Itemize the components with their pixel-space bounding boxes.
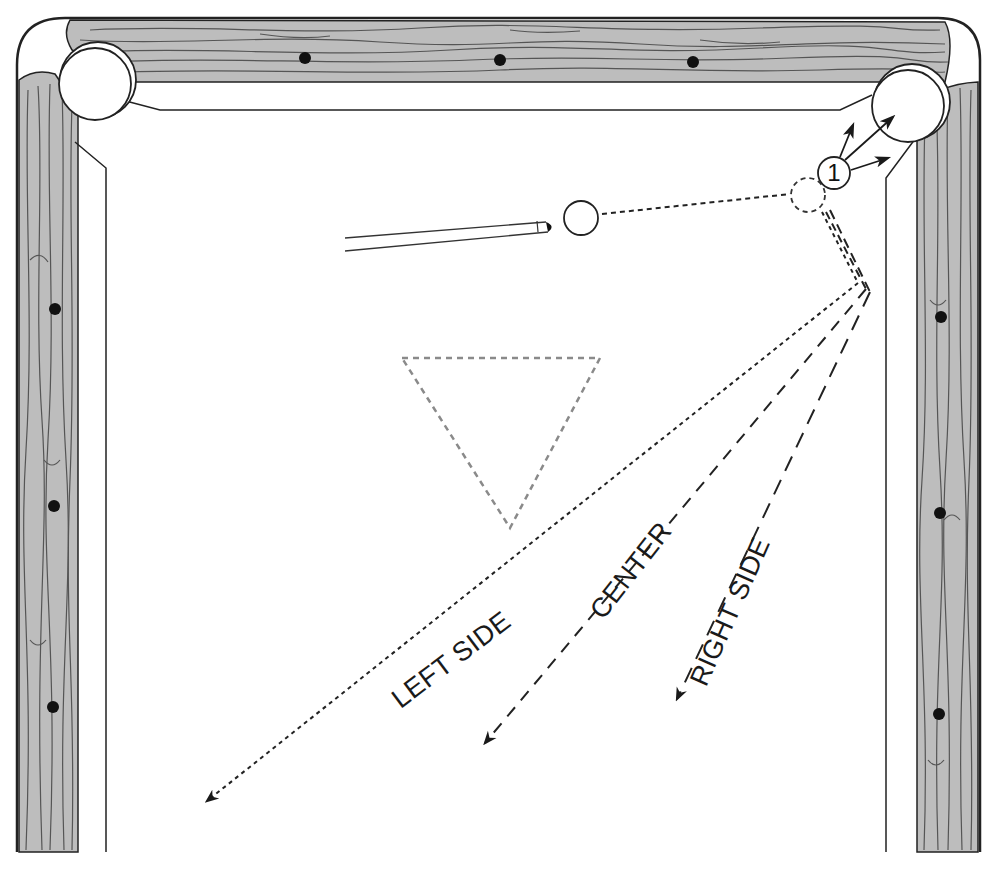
- rack-triangle: [402, 358, 600, 528]
- cue-stick: [345, 221, 552, 251]
- cue-ball: [564, 201, 598, 235]
- path-center: [485, 289, 866, 743]
- right-rail: [917, 82, 978, 852]
- left-diamond-3: [47, 701, 59, 713]
- left-rail: [19, 72, 78, 852]
- top-right-pocket: [872, 64, 950, 142]
- top-diamond-2: [494, 54, 506, 66]
- top-left-pocket: [59, 42, 136, 120]
- arrow-up: [840, 125, 853, 157]
- top-diamond-1: [299, 52, 311, 64]
- arrow-pocket: [845, 117, 893, 160]
- top-rail: [66, 20, 950, 82]
- arrow-right: [851, 158, 888, 170]
- right-diamond-2: [934, 507, 946, 519]
- left-diamond-2: [48, 500, 60, 512]
- right-diamond-1: [935, 311, 947, 323]
- object-ball-number: 1: [825, 158, 843, 188]
- object-ball-arrows: [840, 117, 893, 170]
- aim-line: [602, 194, 790, 214]
- top-diamond-3: [687, 56, 699, 68]
- right-diamond-3: [933, 708, 945, 720]
- ghost-ball: [791, 178, 825, 212]
- cushions: [75, 95, 918, 852]
- left-diamond-1: [49, 303, 61, 315]
- deflection-paths: [207, 210, 870, 801]
- pool-table-diagram: 1 LEFT SIDE CENTER RIGHT SIDE: [0, 0, 996, 871]
